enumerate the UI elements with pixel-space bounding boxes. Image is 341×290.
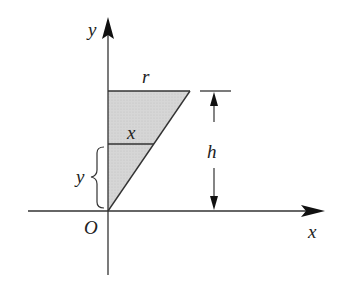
- x-axis-label: x: [307, 221, 317, 242]
- cone-diagram: y x O r x h y: [0, 0, 341, 290]
- origin-label: O: [84, 217, 98, 238]
- y-axis-label: y: [86, 19, 97, 40]
- h-arrow-up-icon: [210, 92, 218, 106]
- slice-height-label: y: [74, 166, 85, 187]
- radius-label: r: [142, 66, 150, 87]
- slice-radius-label: x: [126, 122, 136, 143]
- h-arrow-down-icon: [210, 196, 218, 210]
- y-brace-icon: [91, 147, 104, 208]
- height-label: h: [207, 141, 217, 162]
